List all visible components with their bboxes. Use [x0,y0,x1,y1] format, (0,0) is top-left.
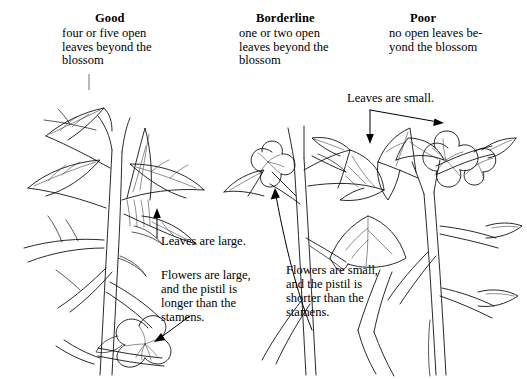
blossom-poor [423,131,496,187]
arrow-leaves-small [366,110,444,144]
plant-illustration-poor [377,128,522,376]
plant-illustration-borderline [224,126,444,376]
arrow-flowers-small [271,188,312,330]
arrow-flowers-large [154,316,190,342]
plant-illustration-good [24,108,204,375]
blossom-good [96,316,171,368]
illustrations-layer [0,0,527,379]
figure-canvas: Good four or five open leaves beyond the… [0,0,527,379]
